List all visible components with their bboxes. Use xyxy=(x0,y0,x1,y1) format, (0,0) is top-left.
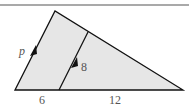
label-p: p xyxy=(18,44,25,58)
label-6: 6 xyxy=(39,93,45,107)
label-12: 12 xyxy=(109,93,121,107)
label-8: 8 xyxy=(81,60,87,74)
triangle xyxy=(15,11,183,90)
triangle-diagram: p 8 6 12 xyxy=(0,0,189,110)
